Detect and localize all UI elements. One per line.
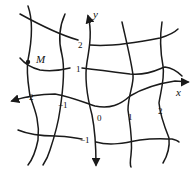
origin-label: 0 — [97, 113, 102, 123]
y-tick-2: 2 — [78, 40, 83, 50]
curve-h-minus1-right — [96, 139, 179, 144]
curve-h-minus1 — [18, 130, 82, 139]
curve-v-minus1 — [43, 14, 65, 165]
x-tick-2: 2 — [158, 106, 163, 116]
x-axis-label: x — [175, 86, 181, 98]
y-axis-label: y — [92, 8, 98, 20]
x-tick-minus1: −1 — [58, 100, 68, 110]
curve-v-2 — [159, 22, 169, 163]
x-tick-minus2: −2 — [24, 92, 34, 102]
curve-h-2 — [20, 14, 78, 40]
point-m-label: M — [35, 53, 46, 65]
x-tick-1: 1 — [128, 112, 133, 122]
curve-h-2-right — [90, 29, 178, 45]
y-tick-1: 1 — [76, 64, 81, 74]
curvilinear-grid-diagram: M y x 2 1 0 −1 −2 −1 1 2 — [0, 0, 196, 177]
curve-v-minus2 — [27, 6, 38, 165]
y-tick-minus1: −1 — [80, 135, 90, 145]
point-m — [26, 60, 30, 64]
